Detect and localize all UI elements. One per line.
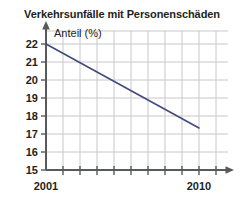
data-series-line [46, 44, 199, 128]
horizontal-gridlines [46, 31, 228, 152]
y-axis-tick-labels: 22 21 20 19 18 17 16 15 [26, 38, 38, 176]
chart-figure: Verkehrsunfälle mit Personenschäden [0, 0, 244, 200]
y-tick-label: 17 [26, 128, 38, 140]
y-tick-label: 22 [26, 38, 38, 50]
x-tick-label-start: 2001 [34, 180, 58, 192]
y-tick-label: 20 [26, 74, 38, 86]
y-tick-label: 16 [26, 146, 38, 158]
vertical-gridlines [63, 31, 216, 170]
y-axis-label: Anteil (%) [54, 27, 102, 39]
y-tick-label: 15 [26, 164, 38, 176]
x-axis-tick-labels: 2001 2010 [34, 180, 211, 192]
y-tick-label: 19 [26, 92, 38, 104]
x-axis [46, 166, 234, 174]
x-tick-label-end: 2010 [187, 180, 211, 192]
y-tick-label: 21 [26, 56, 38, 68]
y-tick-label: 18 [26, 110, 38, 122]
line-chart-plot: 22 21 20 19 18 17 16 15 2001 2010 Anteil… [0, 0, 244, 200]
